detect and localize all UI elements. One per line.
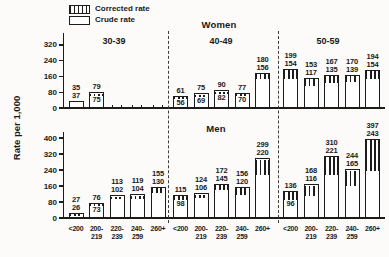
bar-label-crude: 106 <box>189 184 213 192</box>
bar-label-crude: 70 <box>230 96 254 103</box>
y-tick <box>59 44 63 45</box>
bar-label-crude: 220 <box>251 149 275 157</box>
y-tick-label: 400 <box>32 134 57 143</box>
bar-corrected-extension <box>325 76 337 82</box>
bar-corrected-extension <box>346 76 358 82</box>
bar-label-crude: 104 <box>126 185 150 193</box>
bar-corrected-extension <box>366 140 378 171</box>
bar-stub <box>132 105 142 109</box>
x-tick-label: 259 <box>227 233 257 241</box>
y-tick-label: 80 <box>32 198 57 207</box>
bar-corrected-extension <box>305 79 317 86</box>
y-tick-label: 0 <box>32 214 57 223</box>
y-tick-label: 320 <box>32 40 57 49</box>
y-tick-label: 240 <box>32 166 57 175</box>
y-tick-label: 80 <box>32 88 57 97</box>
chart: Rate per 1,000 Corrected rateCrude rateW… <box>0 0 389 257</box>
bar-label-crude: 98 <box>169 200 193 207</box>
bar-label-corrected: 77 <box>230 84 254 92</box>
bar-corrected-extension <box>70 214 82 216</box>
bar-label-crude: 96 <box>279 200 303 207</box>
bar-stub <box>112 105 122 109</box>
bar-label-crude: 73 <box>85 206 109 213</box>
bar-corrected-extension <box>152 188 164 193</box>
y-tick-label: 160 <box>32 182 57 191</box>
corrected-rate-swatch-icon <box>69 5 90 14</box>
bar-corrected-extension <box>131 196 143 199</box>
y-tick <box>59 137 63 138</box>
bar-corrected-extension <box>325 157 337 175</box>
y-tick <box>59 76 63 77</box>
y-axis-title: Rate per 1,000 <box>11 85 23 171</box>
y-tick <box>59 185 63 186</box>
y-tick-label: 160 <box>32 72 57 81</box>
age-group-label: 30-39 <box>89 36 139 46</box>
y-tick <box>59 107 63 108</box>
bar-corrected-extension <box>236 188 248 195</box>
bar-label-crude: 130 <box>146 178 170 186</box>
y-tick <box>59 153 63 154</box>
age-group-label: 40-49 <box>196 36 246 46</box>
x-tick-label: 259 <box>123 233 153 241</box>
bar <box>69 101 84 108</box>
bar-corrected-extension <box>215 185 227 190</box>
bar-corrected-extension <box>256 160 268 176</box>
legend-label: Corrected rate <box>95 4 185 14</box>
bar-label-corrected: 76 <box>85 194 109 202</box>
section-title: Women <box>189 20 249 30</box>
x-tick-label: 259 <box>337 233 367 241</box>
bar-label-crude: 154 <box>361 61 385 69</box>
panel-separator <box>278 31 279 223</box>
bar-corrected-extension <box>284 70 296 79</box>
section-title: Men <box>186 124 246 134</box>
y-tick <box>59 60 63 61</box>
y-tick-label: 320 <box>32 150 57 159</box>
x-tick-label: 260+ <box>358 225 388 233</box>
bar-corrected-extension <box>366 71 378 79</box>
bar-stub <box>153 105 163 109</box>
y-tick-label: 0 <box>32 104 57 113</box>
y-tick-label: 240 <box>32 56 57 65</box>
panel-separator <box>168 31 169 223</box>
bar-label-crude: 120 <box>230 178 254 186</box>
bar-label-crude: 75 <box>85 96 109 103</box>
y-tick <box>59 169 63 170</box>
y-tick <box>59 217 63 218</box>
bar-corrected-extension <box>346 171 358 187</box>
bar-corrected-extension <box>195 195 207 199</box>
x-tick-label: 260+ <box>248 225 278 233</box>
bar-corrected-extension <box>111 197 123 199</box>
crude-rate-swatch-icon <box>69 16 90 25</box>
legend-label: Crude rate <box>95 15 185 25</box>
bar-label-crude: 116 <box>299 175 323 183</box>
bar-label-crude: 243 <box>361 130 385 138</box>
y-tick <box>59 201 63 202</box>
y-tick <box>59 92 63 93</box>
bar-label-corrected: 79 <box>85 83 109 91</box>
bar-corrected-extension <box>305 186 317 196</box>
bar-label-crude: 165 <box>340 160 364 168</box>
age-group-label: 50-59 <box>303 36 353 46</box>
bar-corrected-extension <box>256 74 268 79</box>
bar-label-crude: 156 <box>251 64 275 72</box>
